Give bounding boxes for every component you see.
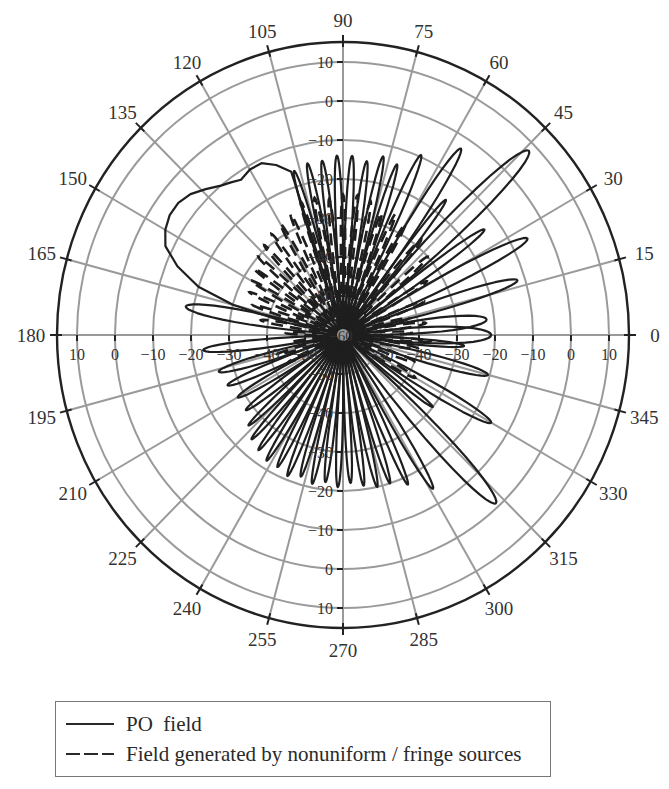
radial-label: −10 bbox=[520, 346, 545, 363]
angle-label: 195 bbox=[27, 407, 56, 428]
legend-entry-fringe-field: Field generated by nonuniform / fringe s… bbox=[66, 740, 521, 768]
grid-spoke bbox=[95, 189, 343, 336]
radial-label: −10 bbox=[308, 522, 333, 539]
radial-label: −20 bbox=[178, 346, 203, 363]
radial-label: −10 bbox=[308, 132, 333, 149]
radial-label: 10 bbox=[69, 346, 85, 363]
angle-label: 135 bbox=[108, 102, 137, 123]
radial-label: 10 bbox=[317, 54, 333, 71]
radial-label: 0 bbox=[325, 561, 333, 578]
angle-label: 210 bbox=[59, 483, 88, 504]
angle-label: 165 bbox=[27, 243, 56, 264]
angle-label: 330 bbox=[599, 483, 628, 504]
angle-label: 150 bbox=[59, 168, 88, 189]
angle-label: 180 bbox=[17, 325, 46, 346]
polar-chart: 0153045607590105120135150165180195210225… bbox=[0, 0, 669, 680]
legend: PO field Field generated by nonuniform /… bbox=[55, 701, 551, 777]
angle-label: 225 bbox=[108, 548, 137, 569]
legend-label-po-field: PO field bbox=[126, 712, 202, 737]
radial-label: −50 bbox=[308, 288, 333, 305]
radial-label: −50 bbox=[308, 366, 333, 383]
angle-label: 315 bbox=[549, 548, 578, 569]
radial-label: 0 bbox=[325, 93, 333, 110]
radial-label: −40 bbox=[406, 346, 431, 363]
angle-label: 300 bbox=[485, 598, 514, 619]
angle-label: 120 bbox=[173, 52, 202, 73]
radial-label: 0 bbox=[567, 346, 575, 363]
radial-label-center: −60 bbox=[329, 328, 352, 344]
angle-label: 75 bbox=[414, 21, 433, 42]
angle-label: 270 bbox=[329, 640, 358, 661]
angle-label: 345 bbox=[630, 407, 659, 428]
radial-label: −20 bbox=[482, 346, 507, 363]
radial-label: 10 bbox=[601, 346, 617, 363]
angle-label: 105 bbox=[248, 21, 277, 42]
radial-label: −30 bbox=[308, 210, 333, 227]
angle-label: 60 bbox=[490, 52, 509, 73]
radial-label: −40 bbox=[308, 405, 333, 422]
radial-label: 0 bbox=[111, 346, 119, 363]
angle-label: 240 bbox=[173, 598, 202, 619]
radial-label: −10 bbox=[140, 346, 165, 363]
radial-label: −20 bbox=[308, 171, 333, 188]
radial-label: 10 bbox=[317, 600, 333, 617]
radial-label: −50 bbox=[368, 346, 393, 363]
angle-label: 45 bbox=[554, 102, 573, 123]
radial-label: −40 bbox=[308, 249, 333, 266]
angle-label: 255 bbox=[248, 629, 277, 650]
dashed-line-swatch-icon bbox=[66, 753, 114, 755]
radial-label: −30 bbox=[216, 346, 241, 363]
solid-line-swatch-icon bbox=[66, 723, 114, 725]
angle-label: 0 bbox=[650, 325, 660, 346]
radial-label: −40 bbox=[254, 346, 279, 363]
legend-label-fringe-field: Field generated by nonuniform / fringe s… bbox=[126, 742, 521, 767]
radial-label: −30 bbox=[308, 444, 333, 461]
angle-label: 285 bbox=[410, 629, 439, 650]
radial-label: −50 bbox=[292, 346, 317, 363]
legend-entry-po-field: PO field bbox=[66, 710, 202, 738]
radial-label: −30 bbox=[444, 346, 469, 363]
angle-label: 90 bbox=[334, 10, 353, 31]
radial-label: −20 bbox=[308, 483, 333, 500]
angle-label: 15 bbox=[635, 243, 654, 264]
angle-label: 30 bbox=[604, 168, 623, 189]
